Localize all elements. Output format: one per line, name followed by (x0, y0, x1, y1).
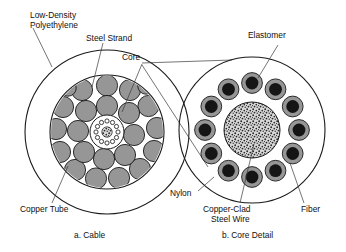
cable-core-assembly (90, 115, 124, 149)
fiber-core (246, 77, 259, 90)
copper-clad-steel-wire (282, 96, 303, 117)
core-wire (99, 120, 103, 124)
steel-strand (60, 80, 76, 96)
fiber-core (286, 147, 299, 160)
fiber-core (205, 100, 218, 113)
fiber-core (269, 164, 282, 177)
fiber-core (222, 83, 235, 96)
core-wire (95, 124, 99, 128)
label-fiber: Fiber (301, 204, 320, 214)
copper-clad-steel-wire (265, 160, 286, 181)
leader-core-to-detail-upper (142, 60, 232, 63)
steel-strand (119, 79, 140, 100)
fiber-core (222, 164, 235, 177)
copper-clad-steel-wire (218, 79, 239, 100)
core-wire (94, 130, 98, 134)
leader-elastomer (258, 45, 278, 78)
copper-clad-steel-wire (289, 120, 310, 141)
core-wire (110, 120, 114, 124)
core-wire (110, 139, 114, 143)
panel-cable: Low-Density Polyethylene Steel Strand Co… (20, 10, 189, 240)
steel-strand (118, 102, 139, 123)
copper-clad-steel-wire (282, 143, 303, 164)
fiber-core (199, 124, 212, 137)
core-wire (114, 135, 118, 139)
steel-strand (143, 140, 164, 161)
steel-strand (75, 100, 96, 121)
label-nylon: Nylon (170, 188, 192, 198)
label-low-density-polyethylene-line2: Polyethylene (30, 20, 78, 30)
figure-root: Low-Density Polyethylene Steel Strand Co… (0, 0, 346, 252)
fiber-core (205, 147, 218, 160)
copper-clad-steel-wire (265, 79, 286, 100)
core-inner-boundary (102, 127, 112, 137)
core-wire (105, 141, 109, 145)
copper-clad-steel-wire (201, 143, 222, 164)
core-wire (105, 119, 109, 123)
fiber-core (293, 124, 306, 137)
label-low-density-polyethylene-line1: Low-Density (30, 10, 77, 20)
copper-clad-steel-wire (218, 160, 239, 181)
steel-strand (45, 118, 66, 139)
steel-strand (138, 95, 159, 116)
caption-core-detail: b. Core Detail (222, 230, 273, 240)
core-wire (114, 124, 118, 128)
copper-clad-steel-wire (201, 96, 222, 117)
steel-strand (96, 95, 117, 116)
steel-strand (73, 141, 94, 162)
core-wire (95, 135, 99, 139)
label-elastomer: Elastomer (248, 30, 286, 40)
copper-clad-steel-wire (195, 120, 216, 141)
leader-low-density-polyethylene (33, 28, 52, 67)
steel-strand (67, 120, 88, 141)
leader-nylon (198, 177, 214, 191)
steel-strand (96, 75, 117, 96)
steel-strand (49, 141, 70, 162)
core-wire (116, 130, 120, 134)
label-core: Core (122, 52, 140, 62)
fiber-core (269, 83, 282, 96)
caption-cable: a. Cable (74, 230, 106, 240)
label-copper-clad-steel-wire-line2: Steel Wire (211, 214, 250, 224)
core-wire (99, 139, 103, 143)
cable-cross-section-diagram: Low-Density Polyethylene Steel Strand Co… (0, 0, 346, 252)
fiber-core (286, 100, 299, 113)
label-steel-strand: Steel Strand (86, 33, 132, 43)
label-copper-clad-steel-wire-line1: Copper-Clad (203, 204, 251, 214)
steel-strand (93, 148, 114, 169)
steel-strand (123, 124, 144, 145)
leader-copper-tube (52, 166, 68, 203)
steel-strand (114, 144, 135, 165)
label-copper-tube: Copper Tube (20, 204, 69, 214)
elastomer-center (224, 102, 280, 158)
